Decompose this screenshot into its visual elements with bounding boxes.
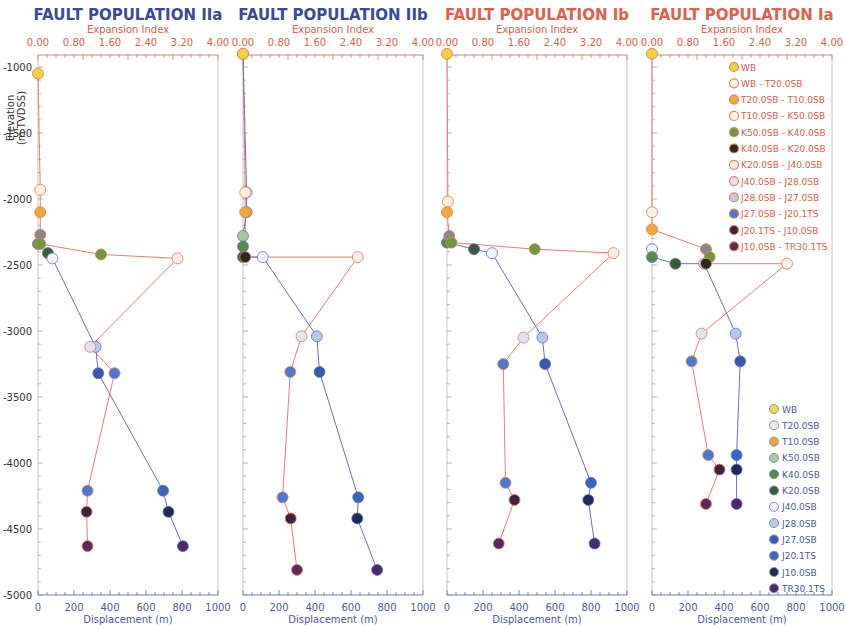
expansion-tick: 3.20 — [785, 37, 807, 48]
expansion-point — [240, 207, 251, 218]
expansion-tick: 4.00 — [412, 37, 434, 48]
legend-swatch — [770, 470, 779, 479]
legend-swatch — [730, 79, 739, 88]
displacement-tick: 200 — [678, 602, 697, 613]
legend-swatch — [730, 177, 739, 186]
displacement-point — [731, 450, 742, 461]
displacement-tick: 1000 — [819, 602, 844, 613]
legend-swatch — [730, 63, 739, 72]
legend-swatch — [730, 160, 739, 169]
displacement-point — [177, 541, 188, 552]
displacement-tick: 1000 — [205, 602, 230, 613]
legend-swatch — [730, 95, 739, 104]
displacement-tick: 1000 — [614, 602, 639, 613]
displacement-point — [163, 506, 174, 517]
displacement-tick: 200 — [64, 602, 83, 613]
displacement-point — [353, 492, 364, 503]
expansion-point — [498, 359, 509, 370]
legend-label: J10.0SB — [781, 568, 817, 578]
legend-label: J27.0SB - J20.1TS — [740, 209, 819, 219]
expansion-point — [529, 244, 540, 255]
expansion-point — [509, 494, 520, 505]
expansion-point — [352, 252, 363, 263]
displacement-tick: 0 — [649, 602, 655, 613]
expansion-point — [493, 538, 504, 549]
elevation-tick: -3500 — [3, 392, 32, 403]
legend-swatch — [770, 551, 779, 560]
displacement-point — [469, 244, 480, 255]
expansion-tick: 0.80 — [268, 37, 290, 48]
expansion-legend: WBWB - T20.0SBT20.0SB - T10.0SBT10.0SB -… — [730, 63, 828, 252]
legend-label: K40.0SB — [782, 470, 820, 480]
expansion-tick: 4.00 — [207, 37, 229, 48]
panel-title: FAULT POPULATION Ib — [445, 6, 629, 24]
legend-swatch — [730, 128, 739, 137]
legend-swatch — [770, 584, 779, 593]
legend-label: J28.0SB — [781, 519, 817, 529]
legend-swatch — [770, 568, 779, 577]
displacement-point — [731, 498, 742, 509]
expansion-point — [285, 513, 296, 524]
plot-frame — [38, 55, 218, 595]
displacement-tick: 400 — [509, 602, 528, 613]
displacement-point — [731, 464, 742, 475]
expansion-axis-label: Expansion Index — [701, 24, 783, 35]
elevation-tick: -3000 — [3, 326, 32, 337]
expansion-axis-label: Expansion Index — [292, 24, 374, 35]
legend-swatch — [770, 486, 779, 495]
elevation-tick: -2000 — [3, 194, 32, 205]
displacement-tick: 800 — [581, 602, 600, 613]
expansion-axis-label: Expansion Index — [87, 24, 169, 35]
displacement-point — [487, 248, 498, 259]
expansion-tick: 3.20 — [376, 37, 398, 48]
legend-label: WB - T20.0SB — [741, 79, 802, 89]
fault-population-figure: FAULT POPULATION IIaExpansion Index0.000… — [0, 0, 846, 628]
displacement-tick: 800 — [786, 602, 805, 613]
displacement-point — [647, 252, 658, 263]
expansion-index-line — [447, 54, 614, 544]
expansion-point — [446, 237, 457, 248]
displacement-axis-label: Displacement (m) — [697, 614, 787, 625]
displacement-point — [540, 359, 551, 370]
legend-label: J20.1TS — [781, 551, 816, 561]
expansion-tick: 1.60 — [99, 37, 121, 48]
expansion-point — [714, 464, 725, 475]
expansion-tick: 0.80 — [63, 37, 85, 48]
panel-title: FAULT POPULATION IIb — [238, 6, 428, 24]
displacement-axis-label: Displacement (m) — [288, 614, 378, 625]
displacement-tick: 200 — [269, 602, 288, 613]
panel-3: FAULT POPULATION IbExpansion Index0.000.… — [436, 6, 640, 625]
displacement-point — [311, 331, 322, 342]
expansion-point — [35, 207, 46, 218]
expansion-tick: 1.60 — [304, 37, 326, 48]
expansion-tick: 0.00 — [232, 37, 254, 48]
expansion-tick: 1.60 — [713, 37, 735, 48]
expansion-tick: 1.60 — [508, 37, 530, 48]
expansion-tick: 2.40 — [749, 37, 771, 48]
expansion-tick: 0.00 — [436, 37, 458, 48]
displacement-point — [238, 241, 249, 252]
expansion-point — [500, 477, 511, 488]
legend-label: T20.0SB — [781, 421, 819, 431]
expansion-point — [647, 207, 658, 218]
displacement-point — [583, 494, 594, 505]
legend-swatch — [770, 437, 779, 446]
displacement-tick: 0 — [240, 602, 246, 613]
legend-swatch — [770, 453, 779, 462]
expansion-tick: 0.00 — [27, 37, 49, 48]
displacement-tick: 600 — [341, 602, 360, 613]
displacement-point — [537, 332, 548, 343]
displacement-point — [47, 253, 58, 264]
expansion-point — [296, 331, 307, 342]
expansion-point — [608, 248, 619, 259]
displacement-tick: 800 — [172, 602, 191, 613]
displacement-line — [447, 243, 595, 544]
displacement-tick: 1000 — [410, 602, 435, 613]
legend-label: T20.0SB - T10.0SB — [740, 95, 825, 105]
legend-swatch — [730, 111, 739, 120]
elevation-axis-label: Elevation(m TVDSS) — [5, 91, 27, 145]
expansion-point — [686, 356, 697, 367]
expansion-point — [82, 485, 93, 496]
expansion-point — [172, 253, 183, 264]
displacement-point — [586, 477, 597, 488]
